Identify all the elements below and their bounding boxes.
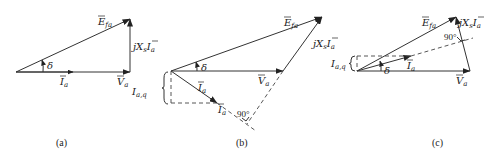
phasor-diagram-figure: Efa jXsIa Ia Va δ (a) Efa jXsIa Ia Ia Va… (0, 0, 495, 154)
label-Iaq-b: Ia,q (131, 86, 147, 99)
label-V-c: Va (456, 75, 467, 88)
panel-a: Efa jXsIa Ia Va δ (a) (16, 16, 155, 149)
label-V-a: Va (117, 76, 128, 89)
label-I-b: Ia (197, 82, 206, 95)
label-E-b: Efa (283, 17, 298, 30)
label-E-a: Efa (97, 16, 112, 29)
delta-angle-arc-a (42, 60, 43, 72)
label-delta-b: δ (201, 62, 207, 73)
panel-c: Efa jXsIa Ia Va Ia,q δ 90° (c) (330, 17, 481, 149)
label-jXI-a: jXsIa (131, 41, 155, 54)
panel-b: Efa jXsIa Ia Ia Va Ia,q δ 90° (b) (131, 17, 335, 149)
delta-angle-arc-b (196, 62, 197, 71)
delta-angle-arc-c (380, 61, 381, 71)
label-I-end-b: Ia (217, 104, 226, 117)
iaq-brace-b (162, 72, 168, 104)
label-jXI-b: jXsIa (311, 38, 335, 51)
caption-c: (c) (432, 137, 443, 149)
emf-phasor-b (171, 17, 322, 71)
iaq-brace-c (349, 56, 355, 71)
label-I-a: Ia (59, 76, 68, 89)
caption-a: (a) (56, 137, 67, 149)
label-90deg-c: 90° (444, 32, 457, 42)
label-90deg-b: 90° (237, 109, 250, 119)
caption-b: (b) (236, 137, 248, 149)
label-delta-c: δ (384, 65, 390, 76)
label-V-b: Va (258, 75, 269, 88)
label-delta-a: δ (47, 60, 53, 71)
phasor-overbars (60, 16, 484, 104)
label-Iaq-c: Ia,q (330, 58, 346, 71)
emf-phasor-a (16, 19, 130, 72)
label-jXI-c: jXsIa (457, 17, 481, 30)
label-E-c: Efa (421, 17, 436, 30)
current-phasor-b (171, 71, 217, 103)
